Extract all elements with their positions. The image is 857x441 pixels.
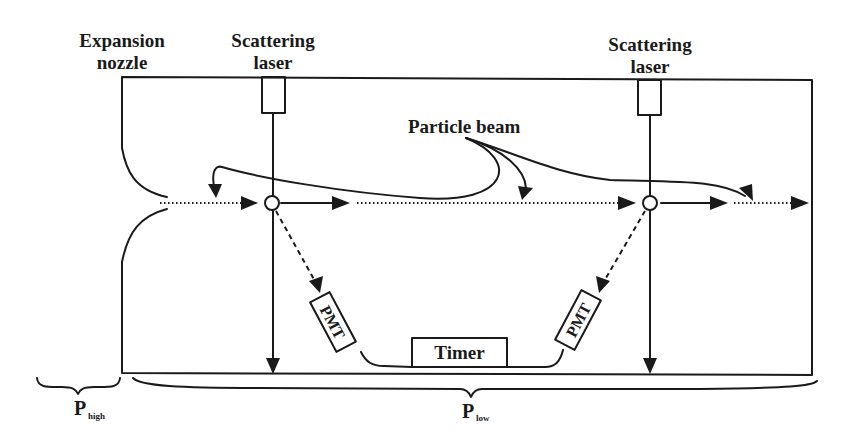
laser-right-box: [638, 80, 661, 115]
scattering-point-left: [265, 196, 279, 210]
svg-text:Scattering: Scattering: [231, 30, 315, 51]
arrow-right-icon: [710, 196, 728, 210]
svg-text:laser: laser: [630, 56, 670, 77]
arrow-down-icon: [266, 358, 280, 374]
arrow-icon: [309, 276, 323, 293]
particle-beam-leaders: [208, 138, 753, 201]
particle-sizing-diagram: Expansion nozzle Scattering laser Scatte…: [0, 0, 857, 441]
laser-left-box: [262, 77, 285, 113]
particle-beam-axis: [160, 196, 809, 210]
scattering-laser-right-label: Scattering laser: [608, 34, 692, 77]
particle-beam-label: Particle beam: [408, 116, 521, 137]
arrow-right-icon: [618, 196, 636, 210]
svg-text:Timer: Timer: [434, 342, 485, 363]
arrow-down-icon: [739, 184, 753, 201]
svg-text:low: low: [476, 413, 490, 423]
arrow-down-icon: [208, 184, 222, 198]
svg-text:Scattering: Scattering: [608, 34, 692, 55]
arrow-right-icon: [791, 196, 809, 210]
scattered-light-right: [603, 211, 645, 283]
scattering-laser-left-label: Scattering laser: [231, 30, 315, 73]
arrow-icon: [596, 276, 610, 293]
expansion-nozzle-label: Expansion nozzle: [79, 30, 165, 73]
expansion-nozzle: [122, 148, 167, 290]
arrow-down-icon: [643, 358, 657, 374]
arrow-right-icon: [332, 196, 350, 210]
scattering-laser-left: [262, 77, 285, 374]
svg-text:nozzle: nozzle: [97, 52, 148, 73]
svg-text:Expansion: Expansion: [79, 30, 165, 51]
arrow-down-icon: [518, 186, 533, 200]
svg-text:P: P: [462, 400, 474, 422]
svg-text:high: high: [88, 411, 105, 421]
pmt-left: PMT: [310, 292, 356, 352]
timer: Timer: [412, 338, 507, 367]
scattering-laser-right: [638, 80, 661, 374]
p-low-brace: P low: [133, 378, 817, 423]
p-high-brace: P high: [37, 378, 120, 421]
pmt-right: PMT: [555, 290, 601, 350]
svg-text:laser: laser: [253, 52, 293, 73]
pmt-left-wire: [361, 352, 412, 367]
scattering-point-right: [643, 196, 657, 210]
arrow-right-icon: [241, 196, 258, 210]
svg-text:P: P: [74, 397, 86, 419]
pmt-right-wire: [507, 350, 563, 367]
scattered-light-left: [276, 211, 316, 283]
